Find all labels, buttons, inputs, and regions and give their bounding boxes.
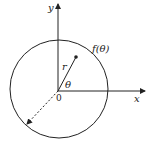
angle-label: θ bbox=[65, 79, 71, 90]
curve-label: f(θ) bbox=[91, 43, 110, 54]
dashed-radius bbox=[27, 91, 58, 124]
radius-point bbox=[74, 55, 78, 59]
radius-label: r bbox=[62, 61, 68, 72]
polar-diagram: y x 0 r θ f(θ) bbox=[0, 0, 148, 149]
x-axis-label: x bbox=[134, 93, 140, 104]
y-axis-label: y bbox=[47, 2, 54, 13]
origin-label: 0 bbox=[56, 93, 62, 103]
